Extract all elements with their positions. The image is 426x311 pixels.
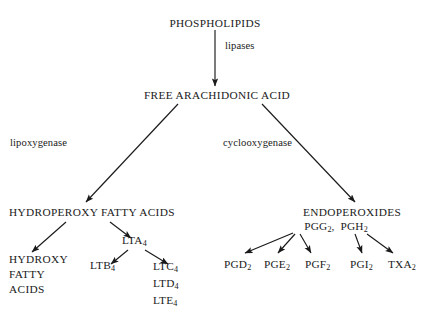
node-ltc4: LTC4 xyxy=(153,259,179,276)
node-lta4: LTA4 xyxy=(122,234,147,249)
label-cyclooxygenase: cyclooxygenase xyxy=(223,137,292,150)
hydroxy-line-3: ACIDS xyxy=(9,282,68,297)
arrow-endoperoxide-to-pgf2 xyxy=(300,234,311,253)
hydroxy-line-1: HYDROXY xyxy=(9,252,68,267)
node-pge2: PGE2 xyxy=(264,258,290,273)
node-ltb4: LTB4 xyxy=(90,259,115,274)
node-txa2: TXA2 xyxy=(388,258,416,273)
node-pgf2: PGF2 xyxy=(305,258,330,273)
node-cysteinyl-leukotrienes: LTC4 LTD4 LTE4 xyxy=(153,259,179,310)
arrow-arachidonic-to-hydroperoxy xyxy=(86,104,178,202)
arrow-endoperoxide-to-pgd2 xyxy=(245,233,293,253)
arrow-arachidonic-to-endoperoxides xyxy=(262,104,355,202)
node-endoperoxide-species: PGG2, PGH2 xyxy=(304,220,368,235)
node-pgd2: PGD2 xyxy=(224,258,251,273)
hydroxy-line-2: FATTY xyxy=(9,267,68,282)
node-endoperoxides: ENDOPEROXIDES xyxy=(303,206,401,219)
arrow-endoperoxide-to-pge2 xyxy=(278,234,295,253)
arrow-hydroperoxy-to-hydroxy xyxy=(32,222,66,252)
arrow-endoperoxide-to-txa2 xyxy=(367,234,393,253)
label-lipoxygenase: lipoxygenase xyxy=(10,137,67,150)
species-pgg2: PGG2, xyxy=(304,220,334,232)
species-pgh2: PGH2 xyxy=(341,220,368,232)
node-phospholipids: PHOSPHOLIPIDS xyxy=(169,17,260,30)
node-hydroperoxy-fatty-acids: HYDROPEROXY FATTY ACIDS xyxy=(9,206,175,219)
pathway-diagram: PHOSPHOLIPIDS lipases FREE ARACHIDONIC A… xyxy=(0,0,426,311)
node-pgi2: PGI2 xyxy=(350,258,373,273)
node-hydroxy-fatty-acids: HYDROXY FATTY ACIDS xyxy=(9,252,68,297)
node-ltd4: LTD4 xyxy=(153,276,179,293)
arrow-endoperoxide-to-pgi2 xyxy=(355,234,362,253)
node-free-arachidonic-acid: FREE ARACHIDONIC ACID xyxy=(144,89,290,102)
node-lte4: LTE4 xyxy=(153,293,179,310)
label-lipases: lipases xyxy=(225,40,255,53)
